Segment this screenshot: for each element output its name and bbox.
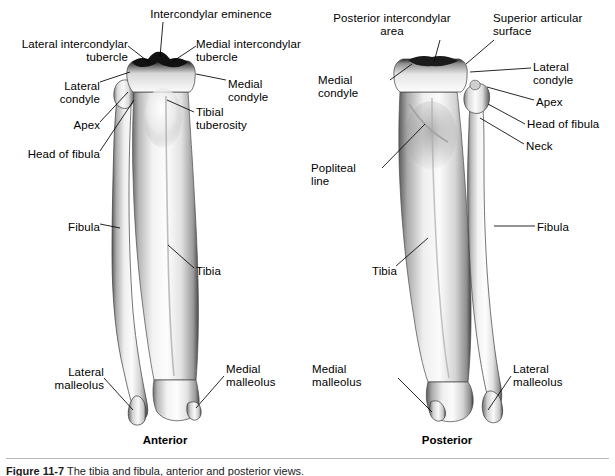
figure-divider bbox=[6, 458, 609, 459]
figure-caption-number: Figure 11-7 bbox=[6, 465, 64, 476]
label-posterior-popliteal-line: Popliteal line bbox=[311, 162, 381, 188]
label-anterior-intercondylar-eminence: Intercondylar eminence bbox=[126, 8, 296, 21]
label-anterior-tibial-tuberosity: Tibial tuberosity bbox=[196, 106, 286, 132]
posterior-tibia bbox=[394, 56, 473, 422]
label-posterior-head-of-fibula: Head of fibula bbox=[527, 118, 615, 131]
label-posterior-fibula: Fibula bbox=[537, 221, 599, 234]
label-anterior-lateral-malleolus: Lateral malleolus bbox=[10, 366, 104, 392]
label-posterior-lateral-condyle: Lateral condyle bbox=[533, 61, 607, 87]
posterior-fibula bbox=[464, 80, 503, 423]
label-anterior-lateral-condyle: Lateral condyle bbox=[10, 80, 100, 106]
view-caption-posterior: Posterior bbox=[397, 434, 497, 446]
label-posterior-superior-articular-surface: Superior articular surface bbox=[493, 12, 607, 38]
label-anterior-apex: Apex bbox=[10, 119, 100, 132]
label-posterior-posterior-intercondylar-area: Posterior intercondylar area bbox=[316, 12, 468, 38]
view-caption-anterior: Anterior bbox=[115, 434, 215, 446]
label-anterior-fibula: Fibula bbox=[24, 221, 100, 234]
label-anterior-medial-condyle: Medial condyle bbox=[228, 78, 308, 104]
label-posterior-medial-condyle: Medial condyle bbox=[318, 74, 392, 100]
figure-caption-text: The tibia and fibula, anterior and poste… bbox=[64, 465, 304, 476]
label-posterior-lateral-malleolus: Lateral malleolus bbox=[513, 363, 603, 389]
anterior-bone-illustration bbox=[100, 22, 226, 425]
label-posterior-tibia: Tibia bbox=[372, 265, 432, 278]
label-posterior-medial-malleolus: Medial malleolus bbox=[312, 363, 398, 389]
label-posterior-apex: Apex bbox=[536, 96, 596, 109]
label-posterior-neck: Neck bbox=[526, 140, 586, 153]
label-anterior-head-of-fibula: Head of fibula bbox=[6, 148, 100, 161]
tibia-fibula-figure bbox=[0, 0, 615, 476]
label-anterior-medial-malleolus: Medial malleolus bbox=[226, 363, 312, 389]
label-anterior-lateral-intercondylar-tubercle: Lateral intercondylar tubercle bbox=[6, 38, 128, 64]
label-anterior-tibia: Tibia bbox=[196, 265, 256, 278]
figure-caption: Figure 11-7 The tibia and fibula, anteri… bbox=[6, 465, 609, 476]
label-anterior-medial-intercondylar-tubercle: Medial intercondylar tubercle bbox=[196, 38, 316, 64]
